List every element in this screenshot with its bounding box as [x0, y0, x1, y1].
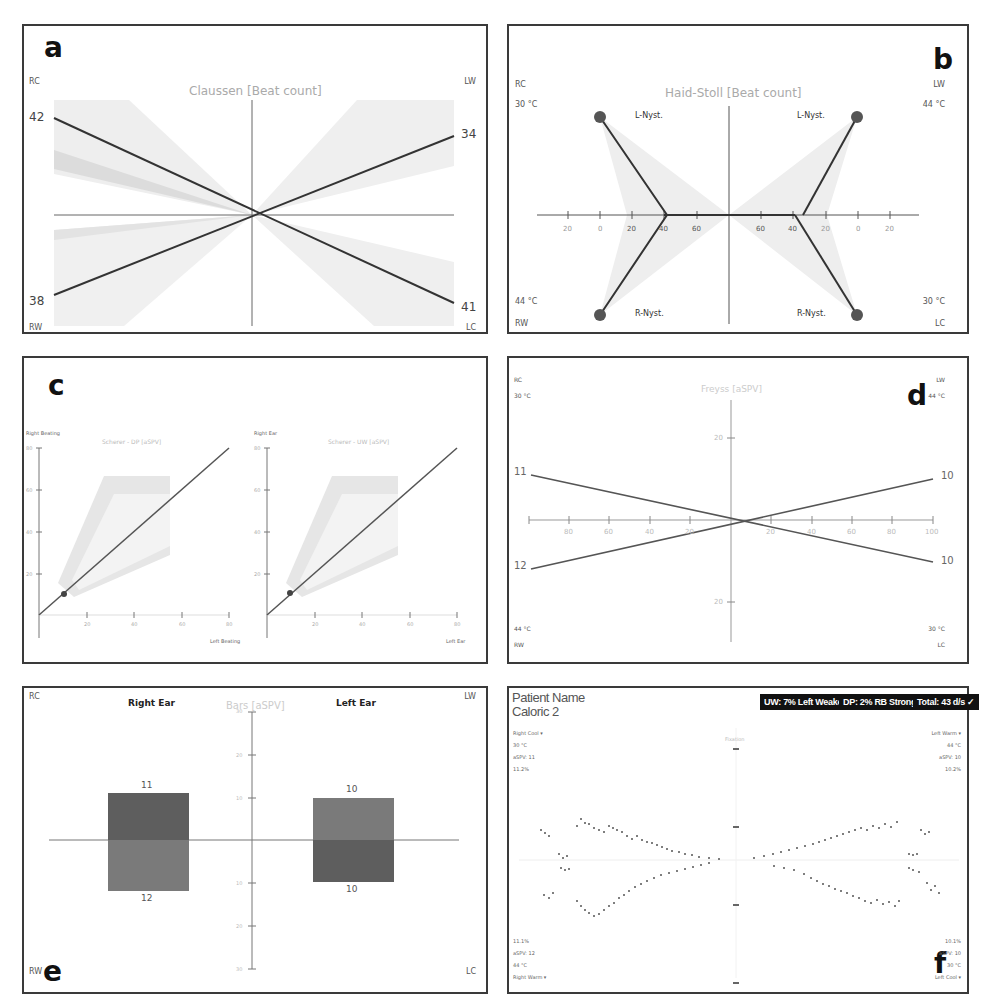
y-tick: 20	[26, 571, 32, 577]
claussen-chart	[24, 26, 486, 332]
y-tick: 60	[254, 487, 260, 493]
corner-label-rc: RC	[29, 692, 40, 701]
left-warm-dropdown[interactable]: Left Warm ▾	[931, 730, 961, 736]
total-badge[interactable]: Total: 43 d/s ✓	[913, 694, 979, 710]
temp-tl: 30 °C	[515, 100, 537, 109]
left-top-aspv: aSPV: 11	[513, 754, 535, 760]
panel-letter: c	[48, 372, 65, 400]
y-tick: 30	[236, 708, 242, 714]
value-lc: 41	[461, 300, 476, 314]
chart-title: Scherer - UW [aSPV]	[328, 438, 389, 445]
panel-a-claussen: a RC LW RW LC Claussen [Beat count] 42 3…	[22, 24, 488, 334]
x-tick: 60	[407, 621, 413, 627]
x-tick: 40	[359, 621, 365, 627]
center-axis-label: Fixation	[725, 736, 745, 742]
x-tick: 20	[821, 225, 830, 233]
x-tick: 80	[226, 621, 232, 627]
patient-name: Patient Name	[512, 691, 585, 705]
quadrant-label: L-Nyst.	[635, 111, 663, 120]
x-tick: 20	[84, 621, 90, 627]
x-tick: 60	[692, 225, 701, 233]
value-lw: 10	[941, 470, 954, 481]
corner-label-rw: RW	[29, 323, 42, 332]
y-tick: 40	[254, 529, 260, 535]
left-top-pct: 11.2%	[513, 766, 529, 772]
y-tick: 20	[236, 752, 242, 758]
x-tick: 20	[685, 528, 694, 536]
quadrant-label: L-Nyst.	[797, 111, 825, 120]
panel-letter: b	[933, 46, 953, 74]
left-bottom-pct: 11.1%	[513, 938, 529, 944]
x-tick: 20	[766, 528, 775, 536]
corner-label-lc: LC	[466, 967, 476, 976]
corner-label-lw: LW	[936, 376, 945, 383]
panel-letter: a	[44, 34, 63, 62]
corner-label-lc: LC	[466, 323, 476, 332]
x-tick: 0	[598, 225, 602, 233]
quadrant-label: R-Nyst.	[635, 309, 664, 318]
right-cool-dropdown[interactable]: Right Cool ▾	[513, 730, 543, 736]
value-rw: 12	[514, 560, 527, 571]
y-tick: 80	[254, 445, 260, 451]
x-tick: 60	[756, 225, 765, 233]
corner-label-lc: LC	[937, 641, 945, 648]
chart-title: Haid-Stoll [Beat count]	[665, 86, 802, 100]
x-tick: 80	[564, 528, 573, 536]
x-tick: 40	[788, 225, 797, 233]
left-ear-label: Left Ear	[336, 698, 376, 708]
chart-title: Bars [aSPV]	[226, 700, 285, 711]
x-tick: 60	[604, 528, 613, 536]
haid-stoll-chart	[509, 26, 967, 332]
right-bottom-temp: 30 °C	[947, 962, 961, 968]
x-tick: 40	[659, 225, 668, 233]
panel-f-caloric: f Patient Name Caloric 2 UW: 7% Left Wea…	[507, 686, 969, 994]
bars-chart	[24, 688, 486, 992]
x-tick: 20	[563, 225, 572, 233]
y-tick: 10	[236, 795, 242, 801]
left-top-temp: 30 °C	[513, 742, 527, 748]
corner-label-rc: RC	[514, 376, 522, 383]
x-tick: 40	[131, 621, 137, 627]
value-rc: 11	[514, 466, 527, 477]
y-axis-label: Right Ear	[254, 430, 277, 436]
x-tick: 20	[627, 225, 636, 233]
y-tick: 40	[26, 529, 32, 535]
x-tick: 60	[179, 621, 185, 627]
left-cool-dropdown[interactable]: Left Cool ▾	[935, 974, 961, 980]
value-rw: 38	[29, 294, 44, 308]
chart-title: Claussen [Beat count]	[189, 84, 322, 98]
y-axis-label: Right Beating	[26, 430, 60, 436]
corner-label-rw: RW	[29, 967, 42, 976]
y-tick: 60	[26, 487, 32, 493]
temp-tl: 30 °C	[514, 392, 531, 399]
temp-bl: 44 °C	[515, 297, 537, 306]
value-right-top: 11	[141, 780, 152, 790]
caloric-scatter	[509, 688, 967, 992]
value-rc: 42	[29, 110, 44, 124]
x-tick: 60	[847, 528, 856, 536]
corner-label-lc: LC	[935, 319, 945, 328]
value-lw: 34	[461, 127, 476, 141]
corner-label-lw: LW	[933, 80, 945, 89]
right-bottom-pct: 10.1%	[945, 938, 961, 944]
temp-bl: 44 °C	[514, 625, 531, 632]
panel-letter: d	[907, 382, 927, 410]
x-tick: 40	[807, 528, 816, 536]
chart-title: Scherer - DP [aSPV]	[102, 438, 161, 445]
test-name: Caloric 2	[512, 705, 559, 719]
panel-b-haid-stoll: b RC LW RW LC 30 °C 44 °C 44 °C 30 °C Ha…	[507, 24, 969, 334]
bar-right-ear-top	[108, 793, 189, 840]
temp-tr: 44 °C	[928, 392, 945, 399]
value-left-bottom: 10	[346, 884, 357, 894]
panel-c-scherer: c Right Beating Scherer - DP [aSPV] Left…	[22, 356, 488, 664]
x-tick: 20	[312, 621, 318, 627]
value-lc: 10	[941, 555, 954, 566]
right-warm-dropdown[interactable]: Right Warm ▾	[513, 974, 546, 980]
y-tick: 20	[254, 571, 260, 577]
left-bottom-temp: 44 °C	[513, 962, 527, 968]
y-tick: 20	[714, 598, 723, 606]
right-ear-label: Right Ear	[128, 698, 175, 708]
y-tick: 10	[236, 880, 242, 886]
right-top-aspv: aSPV: 10	[939, 754, 961, 760]
quadrant-label: R-Nyst.	[797, 309, 826, 318]
